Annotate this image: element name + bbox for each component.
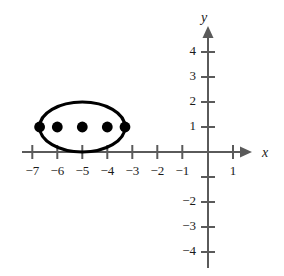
x-tick-label--3: −3 bbox=[125, 163, 139, 178]
y-tick-labels-group: 4 3 2 1 −2 −3 −4 bbox=[182, 43, 196, 258]
y-axis-label: y bbox=[199, 10, 208, 25]
y-tick-label-2: 2 bbox=[190, 93, 197, 108]
x-tick-label--6: −6 bbox=[50, 163, 64, 178]
x-tick-label--4: −4 bbox=[100, 163, 114, 178]
x-tick-label--5: −5 bbox=[75, 163, 89, 178]
point-focus-left bbox=[52, 122, 63, 133]
y-tick-label-4: 4 bbox=[190, 43, 197, 58]
y-tick-label-3: 3 bbox=[190, 68, 197, 83]
x-axis-arrowhead bbox=[240, 147, 252, 158]
x-tick-label--7: −7 bbox=[25, 163, 39, 178]
x-axis-label: x bbox=[261, 145, 269, 160]
y-tick-label-1: 1 bbox=[190, 118, 197, 133]
graph-figure: −7 −6 −5 −4 −3 −2 −1 1 4 3 2 1 −2 −3 −4 … bbox=[0, 0, 284, 276]
point-focus-right bbox=[102, 122, 113, 133]
point-center bbox=[77, 122, 88, 133]
y-axis-arrowhead bbox=[203, 26, 214, 38]
marked-points-group bbox=[34, 122, 130, 133]
y-tick-label--3: −3 bbox=[182, 218, 196, 233]
coordinate-plane-svg: −7 −6 −5 −4 −3 −2 −1 1 4 3 2 1 −2 −3 −4 … bbox=[0, 0, 284, 276]
x-tick-label--1: −1 bbox=[175, 163, 189, 178]
point-left-vertex bbox=[34, 122, 45, 133]
x-tick-label-1: 1 bbox=[230, 163, 237, 178]
y-tick-label--2: −2 bbox=[182, 193, 196, 208]
y-tick-label--4: −4 bbox=[182, 243, 196, 258]
point-right-vertex bbox=[120, 122, 131, 133]
x-tick-label--2: −2 bbox=[150, 163, 164, 178]
x-tick-labels-group: −7 −6 −5 −4 −3 −2 −1 1 bbox=[25, 163, 236, 178]
